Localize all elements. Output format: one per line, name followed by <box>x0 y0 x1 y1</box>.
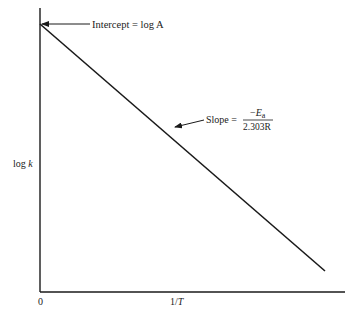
slope-label: Slope = <box>206 114 237 125</box>
regression-line <box>40 24 325 271</box>
y-axis-label: log k <box>13 158 33 169</box>
svg-text:−Ea: −Ea <box>250 107 266 120</box>
x-axis-label: 1/T <box>170 296 185 307</box>
slope-fraction: −Ea 2.303R <box>243 107 273 132</box>
origin-label: 0 <box>38 296 43 307</box>
slope-ea: E <box>255 107 262 118</box>
slope-denominator: 2.303R <box>243 122 271 132</box>
intercept-label: Intercept = log A <box>92 19 164 30</box>
slope-arrow <box>175 120 204 127</box>
slope-ea-sub: a <box>262 111 266 120</box>
arrhenius-diagram: Intercept = log A Slope = −Ea 2.303R log… <box>0 0 355 317</box>
